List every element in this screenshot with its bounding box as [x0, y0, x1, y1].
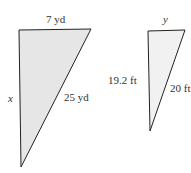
small-hypotenuse-label: 20 ft	[170, 83, 190, 94]
triangles-drawing	[0, 0, 191, 173]
large-top-side-label: 7 yd	[46, 14, 65, 25]
small-left-side-label: 19.2 ft	[108, 75, 137, 86]
small-top-side-label: y	[163, 14, 168, 25]
similar-triangles-figure: 7 yd x 25 yd y 19.2 ft 20 ft	[0, 0, 191, 173]
large-hypotenuse-label: 25 yd	[64, 92, 89, 103]
small-triangle	[148, 30, 185, 131]
large-left-side-label: x	[8, 93, 13, 104]
